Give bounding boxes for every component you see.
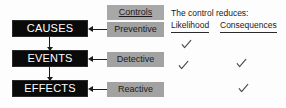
matrix-column-header-likelihood: Likelihood: [171, 21, 209, 33]
control-box-preventive: Preventive: [107, 22, 164, 37]
check-mark-icon-reactive-consequences: [238, 83, 249, 94]
chain-box-effects: EFFECTS: [12, 80, 88, 97]
arrow-reactive-to-effects: [93, 89, 107, 90]
arrowhead-down-icon: [47, 47, 53, 51]
check-mark-icon-detective-likelihood: [178, 60, 189, 71]
chain-box-causes-label: CAUSES: [27, 23, 73, 34]
check-mark-icon-preventive-likelihood: [181, 39, 192, 50]
matrix-column-header-consequences: Consequences: [220, 21, 277, 33]
bowtie-control-diagram: CAUSES EVENTS EFFECTS Controls Preventiv…: [0, 0, 286, 108]
control-box-detective: Detective: [107, 52, 164, 67]
arrowhead-down-icon: [47, 77, 53, 81]
chain-box-events-label: EVENTS: [27, 53, 72, 64]
arrow-causes-to-events: [49, 37, 50, 50]
control-box-detective-label: Detective: [117, 55, 155, 64]
arrowhead-left-icon: [88, 86, 93, 92]
chain-box-effects-label: EFFECTS: [24, 83, 76, 94]
arrow-detective-to-events: [93, 59, 107, 60]
chain-box-causes: CAUSES: [12, 20, 88, 37]
arrow-events-to-effects: [49, 67, 50, 80]
arrowhead-left-icon: [88, 26, 93, 32]
chain-box-events: EVENTS: [12, 50, 88, 67]
matrix-title: The control reduces:: [171, 9, 248, 18]
control-box-preventive-label: Preventive: [114, 25, 157, 34]
control-box-reactive: Reactive: [107, 82, 164, 97]
arrow-preventive-to-causes: [93, 29, 107, 30]
control-box-reactive-label: Reactive: [118, 85, 153, 94]
arrowhead-left-icon: [88, 56, 93, 62]
check-mark-icon-detective-consequences: [236, 58, 247, 69]
controls-header-label: Controls: [119, 8, 153, 17]
controls-header-box: Controls: [107, 5, 164, 20]
